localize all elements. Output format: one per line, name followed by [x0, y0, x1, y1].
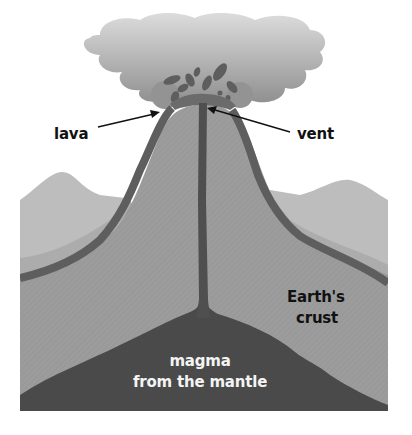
label-magma-line2: from the mantle — [100, 374, 300, 391]
label-lava: lava — [54, 126, 88, 143]
label-magma-line1: magma — [100, 353, 300, 370]
lava-arrow — [98, 110, 160, 127]
label-vent: vent — [297, 126, 334, 143]
label-earths-crust-line1: Earth's — [287, 289, 345, 306]
label-earths-crust-line2: crust — [296, 310, 338, 327]
